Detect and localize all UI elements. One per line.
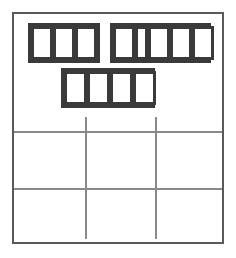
cell <box>148 26 170 60</box>
grid-horizontal-line-1 <box>14 131 222 133</box>
grid-horizontal-line-2 <box>14 188 222 190</box>
cell-group-three <box>28 23 100 63</box>
grid-vertical-line-1 <box>85 117 87 239</box>
cell <box>75 26 97 60</box>
cell-group-five <box>110 23 211 63</box>
cell <box>87 71 110 105</box>
cell <box>133 71 156 105</box>
diagram-canvas <box>0 0 236 258</box>
cell <box>135 26 148 60</box>
cell <box>53 26 75 60</box>
cell <box>170 26 192 60</box>
cell <box>110 71 133 105</box>
cell <box>64 71 87 105</box>
cell-group-four <box>61 68 155 108</box>
cell <box>192 26 214 60</box>
grid-vertical-line-2 <box>155 117 157 239</box>
cell <box>31 26 53 60</box>
cell <box>113 26 135 60</box>
